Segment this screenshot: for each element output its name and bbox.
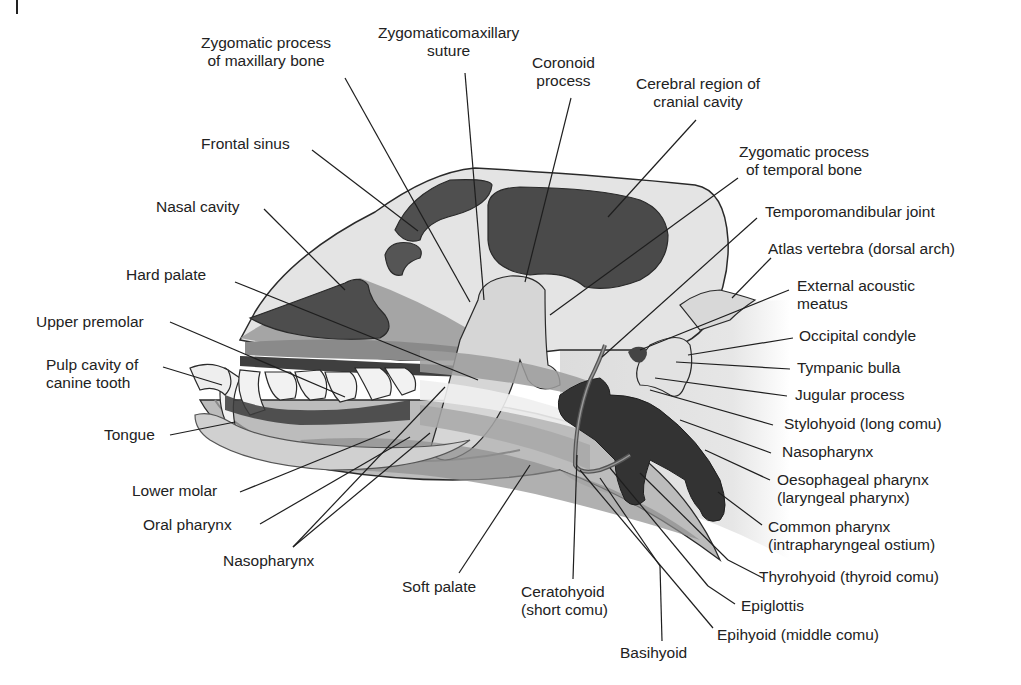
- label-temporomandibular-joint: Temporomandibular joint: [765, 203, 935, 221]
- label-coronoid-process: Coronoid process: [532, 54, 595, 90]
- label-atlas-vertebra: Atlas vertebra (dorsal arch): [768, 240, 955, 258]
- label-oesophageal-pharynx: Oesophageal pharynx (laryngeal pharynx): [777, 471, 929, 507]
- label-hard-palate: Hard palate: [126, 266, 206, 284]
- label-nasopharynx-left: Nasopharynx: [223, 552, 314, 570]
- anatomy-diagram: Zygomatic process of maxillary bone Zygo…: [0, 0, 1021, 685]
- label-pulp-cavity: Pulp cavity of canine tooth: [46, 356, 138, 392]
- label-nasopharynx-right: Nasopharynx: [782, 443, 873, 461]
- canine-tooth: [190, 364, 231, 395]
- label-soft-palate: Soft palate: [402, 578, 476, 596]
- label-cerebral-region: Cerebral region of cranial cavity: [636, 75, 760, 111]
- label-basihyoid: Basihyoid: [620, 644, 687, 662]
- label-epiglottis: Epiglottis: [741, 597, 804, 615]
- label-oral-pharynx: Oral pharynx: [143, 516, 232, 534]
- label-zygomatic-process-maxillary: Zygomatic process of maxillary bone: [201, 34, 331, 70]
- label-frontal-sinus: Frontal sinus: [201, 135, 290, 153]
- label-jugular-process: Jugular process: [795, 386, 904, 404]
- label-zygomatic-process-temporal: Zygomatic process of temporal bone: [739, 143, 869, 179]
- label-nasal-cavity: Nasal cavity: [156, 198, 240, 216]
- label-stylohyoid: Stylohyoid (long comu): [784, 415, 942, 433]
- label-thyrohyoid: Thyrohyoid (thyroid comu): [759, 568, 939, 586]
- label-common-pharynx: Common pharynx (intrapharyngeal ostium): [768, 518, 935, 554]
- label-ceratohyoid: Ceratohyoid (short comu): [521, 583, 608, 619]
- label-tongue: Tongue: [104, 426, 155, 444]
- label-epihyoid: Epihyoid (middle comu): [717, 626, 879, 644]
- label-tympanic-bulla: Tympanic bulla: [797, 359, 900, 377]
- label-zygomaticomaxillary-suture: Zygomaticomaxillary suture: [378, 24, 519, 60]
- label-external-acoustic-meatus: External acoustic meatus: [797, 277, 915, 313]
- label-upper-premolar: Upper premolar: [36, 313, 144, 331]
- label-occipital-condyle: Occipital condyle: [799, 327, 916, 345]
- label-lower-molar: Lower molar: [132, 482, 217, 500]
